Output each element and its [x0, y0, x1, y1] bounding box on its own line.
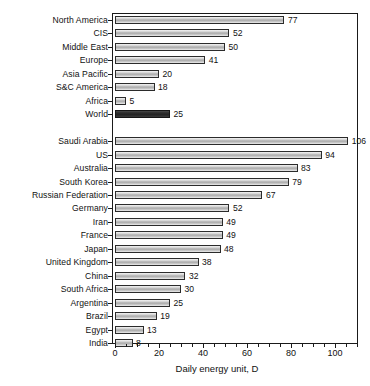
x-axis-tick-label: 20 — [154, 349, 164, 358]
bar-value-label: 5 — [130, 96, 135, 105]
y-axis-tick — [108, 60, 112, 61]
bar — [115, 204, 229, 212]
y-axis-tick — [108, 249, 112, 250]
bar-row: Russian Federation67 — [0, 188, 370, 202]
bar — [115, 151, 322, 159]
category-label: India — [89, 339, 108, 348]
y-axis-tick — [108, 33, 112, 34]
y-axis-tick — [108, 101, 112, 102]
bar-row: China32 — [0, 269, 370, 283]
x-axis-title-text: Daily energy unit, D — [176, 363, 259, 374]
bar-value-label: 13 — [147, 325, 157, 334]
bar — [115, 326, 144, 334]
y-axis-tick — [108, 74, 112, 75]
y-axis-tick — [108, 155, 112, 156]
bar-row: South Korea79 — [0, 175, 370, 189]
bar-value-label: 48 — [224, 245, 234, 254]
x-axis-minor-tick — [280, 344, 281, 347]
bar — [115, 137, 348, 145]
x-axis-minor-tick — [269, 344, 270, 347]
bar — [115, 16, 284, 24]
bar — [115, 110, 170, 118]
bar — [115, 97, 126, 105]
x-axis-tick-label: 40 — [198, 349, 208, 358]
y-axis-tick — [108, 343, 112, 344]
y-axis-tick — [108, 303, 112, 304]
bar — [115, 285, 181, 293]
bar-value-label: 67 — [266, 191, 276, 200]
y-axis-tick — [108, 114, 112, 115]
bar-row: Australia83 — [0, 161, 370, 175]
bar — [115, 299, 170, 307]
bar-row: Europe41 — [0, 53, 370, 67]
bar-row: Middle East50 — [0, 40, 370, 54]
category-label: Iran — [93, 218, 108, 227]
y-axis-tick — [108, 20, 112, 21]
category-label: South Africa — [61, 285, 108, 294]
bar — [115, 70, 159, 78]
bar-value-label: 30 — [185, 285, 195, 294]
category-label: Russian Federation — [32, 191, 108, 200]
category-label: CIS — [93, 29, 108, 38]
y-axis-tick — [108, 47, 112, 48]
x-axis-minor-tick — [170, 344, 171, 347]
bar-value-label: 77 — [288, 15, 298, 24]
y-axis-tick — [108, 262, 112, 263]
bar — [115, 339, 133, 347]
y-axis-tick — [108, 168, 112, 169]
bar-row: North America77 — [0, 13, 370, 27]
category-label: Africa — [86, 96, 108, 105]
bar-row: Argentina25 — [0, 296, 370, 310]
bar-value-label: 52 — [233, 29, 243, 38]
y-axis-tick — [108, 330, 112, 331]
x-axis-tick-label: 80 — [286, 349, 296, 358]
bar-value-label: 20 — [163, 69, 173, 78]
category-label: S&C America — [56, 83, 108, 92]
category-label: United Kingdom — [46, 258, 108, 267]
bar-row: Africa5 — [0, 94, 370, 108]
bar-row: Iran49 — [0, 215, 370, 229]
bar-value-label: 106 — [352, 137, 366, 146]
x-axis-minor-tick — [225, 344, 226, 347]
category-label: Egypt — [86, 325, 108, 334]
y-axis-tick — [108, 316, 112, 317]
category-label: China — [85, 272, 108, 281]
category-label: Asia Pacific — [63, 69, 108, 78]
y-axis-tick — [108, 289, 112, 290]
category-label: North America — [52, 15, 108, 24]
bar — [115, 178, 289, 186]
bar-value-label: 50 — [229, 42, 239, 51]
bar — [115, 245, 221, 253]
bar-row: Germany52 — [0, 202, 370, 216]
y-axis-tick — [108, 276, 112, 277]
bar-row: France49 — [0, 229, 370, 243]
bar-row: Egypt13 — [0, 323, 370, 337]
bar-row: Asia Pacific20 — [0, 67, 370, 81]
y-axis-tick — [108, 87, 112, 88]
bar-value-label: 18 — [158, 83, 168, 92]
bar-value-label: 94 — [325, 150, 335, 159]
bar-row: US94 — [0, 148, 370, 162]
bar — [115, 231, 223, 239]
x-axis-minor-tick — [346, 344, 347, 347]
x-axis-minor-tick — [181, 344, 182, 347]
bar-value-label: 38 — [202, 258, 212, 267]
bar-row: S&C America18 — [0, 80, 370, 94]
bar-value-label: 32 — [189, 272, 199, 281]
category-label: Australia — [74, 164, 108, 173]
bar — [115, 56, 205, 64]
x-axis-minor-tick — [324, 344, 325, 347]
y-axis-tick — [108, 141, 112, 142]
bar-value-label: 49 — [226, 218, 236, 227]
bar-row: World25 — [0, 107, 370, 121]
x-axis-title: Daily energy unit, D — [0, 364, 370, 374]
bar — [115, 272, 185, 280]
bar-value-label: 49 — [226, 231, 236, 240]
category-label: Germany — [72, 204, 108, 213]
category-label: World — [85, 110, 108, 119]
x-axis-minor-tick — [192, 344, 193, 347]
bar-value-label: 83 — [301, 164, 311, 173]
bar — [115, 83, 155, 91]
category-label: Argentina — [70, 299, 108, 308]
y-axis-tick — [108, 235, 112, 236]
